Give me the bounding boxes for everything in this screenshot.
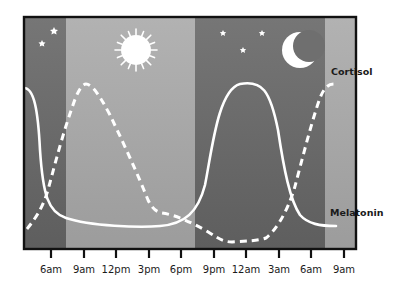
tick-label: 9am: [333, 264, 355, 275]
x-axis-labels: 6am 9am 12pm 3pm 6pm 9pm 12am 3am 6am 9a…: [40, 264, 355, 275]
cortisol-label: Cortisol: [331, 66, 372, 77]
tick-label: 3pm: [138, 264, 160, 275]
sun-icon: [115, 29, 157, 71]
tick-label: 3am: [268, 264, 290, 275]
tick-label: 12pm: [102, 264, 131, 275]
tick-label: 9pm: [203, 264, 225, 275]
tick-label: 9am: [73, 264, 95, 275]
tick-label: 6pm: [170, 264, 192, 275]
tick-label: 6am: [300, 264, 322, 275]
x-axis-ticks: [51, 249, 344, 258]
hormone-chart: Cortisol Melatonin 6am 9am 12pm 3pm 6pm …: [0, 0, 406, 294]
tick-label: 12am: [232, 264, 261, 275]
tick-label: 6am: [40, 264, 62, 275]
